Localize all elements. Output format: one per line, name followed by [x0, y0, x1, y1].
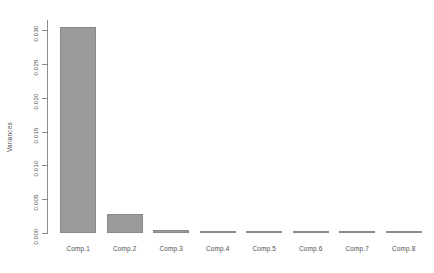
y-axis-tick: [42, 165, 47, 166]
screeplot-figure: Variances 0.0000.0050.0100.0150.0200.025…: [0, 0, 434, 273]
y-axis-tick: [42, 199, 47, 200]
x-axis-label: Comp.8: [381, 245, 428, 252]
bar: [339, 231, 375, 233]
bar: [107, 214, 143, 233]
bar-slot: [386, 20, 422, 233]
y-axis-tick: [42, 98, 47, 99]
bar-slot: [246, 20, 282, 233]
bar-slot: [107, 20, 143, 233]
x-axis-label: Comp.7: [334, 245, 381, 252]
x-axis-label: Comp.3: [148, 245, 195, 252]
bar-slot: [339, 20, 375, 233]
bar-slot: [153, 20, 189, 233]
y-axis-tick-label: 0.005: [32, 195, 39, 211]
y-axis-tick-label: 0.015: [32, 127, 39, 143]
bar: [293, 231, 329, 233]
x-axis-label: Comp.1: [55, 245, 102, 252]
y-axis-tick: [42, 233, 47, 234]
x-axis-label: Comp.5: [241, 245, 288, 252]
y-axis-tick-label: 0.010: [32, 161, 39, 177]
x-axis-label: Comp.2: [102, 245, 149, 252]
bar-slot: [293, 20, 329, 233]
bar: [153, 230, 189, 233]
bar-series: [55, 20, 427, 233]
y-axis-line: [47, 20, 48, 234]
y-axis-tick: [42, 132, 47, 133]
x-axis-label: Comp.6: [288, 245, 335, 252]
y-axis-tick: [42, 30, 47, 31]
y-axis-tick-label: 0.000: [32, 228, 39, 244]
y-axis-tick-label: 0.030: [32, 26, 39, 42]
y-axis-tick-label: 0.025: [32, 59, 39, 75]
x-axis-label: Comp.4: [195, 245, 242, 252]
x-axis-labels: Comp.1Comp.2Comp.3Comp.4Comp.5Comp.6Comp…: [55, 245, 427, 259]
bar: [200, 231, 236, 233]
y-axis-tick: [42, 64, 47, 65]
y-axis-tick-label: 0.020: [32, 93, 39, 109]
bar: [246, 231, 282, 233]
bar-slot: [200, 20, 236, 233]
y-axis-title: Variances: [6, 122, 13, 152]
bar: [60, 27, 96, 233]
bar: [386, 231, 422, 233]
bar-slot: [60, 20, 96, 233]
